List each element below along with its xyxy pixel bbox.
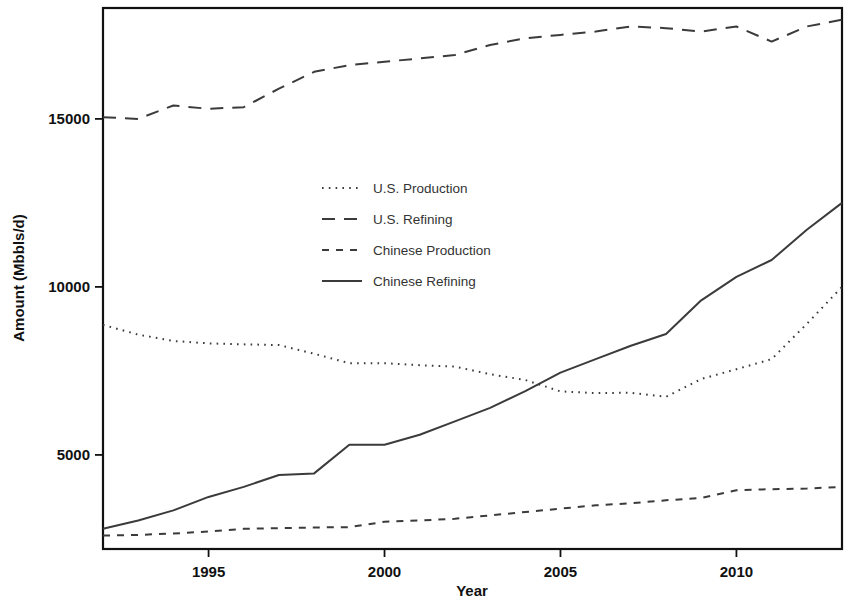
- legend-label-3: Chinese Production: [373, 243, 491, 258]
- legend-label-4: Chinese Refining: [373, 274, 476, 289]
- chart-figure: 50001000015000 1995200020052010 U.S. Pro…: [0, 0, 851, 603]
- y-axis-title: Amount (Mbbls/d): [10, 214, 27, 341]
- x-axis-ticks: 1995200020052010: [192, 549, 753, 580]
- series-line-u-s-production: [103, 287, 842, 397]
- y-tick-label: 10000: [48, 278, 90, 295]
- chart-legend: U.S. ProductionU.S. RefiningChinese Prod…: [322, 181, 491, 289]
- y-tick-label: 15000: [48, 110, 90, 127]
- legend-label-2: U.S. Refining: [373, 212, 453, 227]
- x-tick-label: 2010: [720, 563, 753, 580]
- legend-label-1: U.S. Production: [373, 181, 468, 196]
- line-chart: 50001000015000 1995200020052010 U.S. Pro…: [0, 0, 851, 603]
- x-tick-label: 1995: [192, 563, 225, 580]
- series-line-chinese-production: [103, 487, 842, 536]
- y-axis-ticks: 50001000015000: [48, 110, 103, 463]
- series-line-u-s-refining: [103, 20, 842, 119]
- y-tick-label: 5000: [57, 446, 90, 463]
- x-tick-label: 2005: [544, 563, 577, 580]
- x-axis-title: Year: [456, 582, 488, 599]
- x-tick-label: 2000: [368, 563, 401, 580]
